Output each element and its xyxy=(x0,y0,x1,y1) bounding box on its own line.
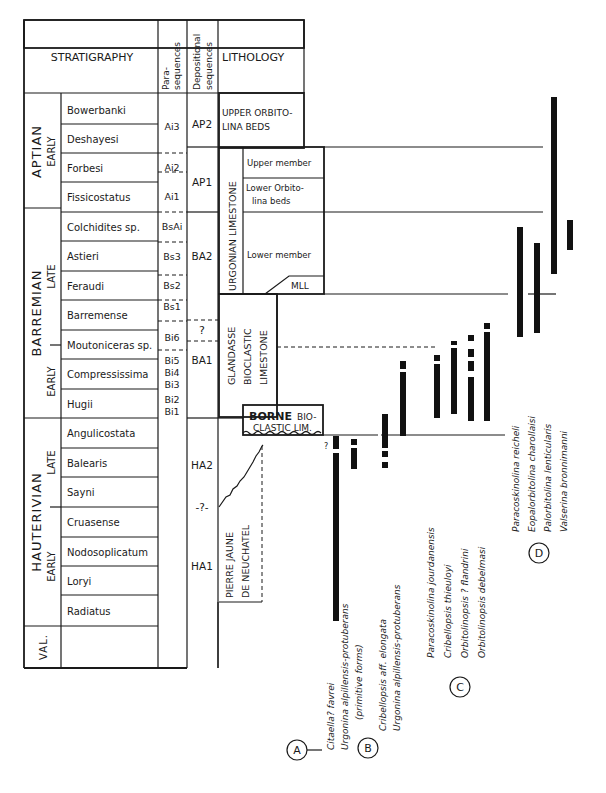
parasequence-label: Bi1 xyxy=(164,406,179,417)
zone-label: Fissicostatus xyxy=(67,192,130,203)
litho-mll: MLL xyxy=(291,281,309,291)
group-a-label: A xyxy=(293,744,301,757)
header-depositional-2: sequences xyxy=(204,42,214,90)
zone-label: Hugii xyxy=(67,399,93,410)
zone-label: Radiatus xyxy=(67,606,111,617)
range-bars: ? xyxy=(324,97,573,621)
parasequence-label: BsAi xyxy=(162,221,183,232)
parasequence-label: Ai1 xyxy=(164,191,179,202)
species-cribellopsis-elongata: Cribellopsis aff. elongata xyxy=(378,619,388,731)
group-d: D Paracoskinolina reicheli Eopalorbitoli… xyxy=(511,415,569,563)
group-b: B Cribellopsis aff. elongata Urgonina al… xyxy=(358,584,402,758)
group-c-label: C xyxy=(456,681,464,694)
parasequence-label: Bi5 xyxy=(164,355,179,366)
stage-label: APTIAN xyxy=(29,125,44,178)
depositional-sequence-label: BA2 xyxy=(191,250,212,262)
litho-glandasse-1: GLANDASSE xyxy=(226,327,237,385)
zone-label: Moutoniceras sp. xyxy=(67,340,152,351)
litho-pierre-jaune-1: PIERRE JAUNE xyxy=(224,532,235,598)
species-orbitolinopsis-flandrini: Orbitolinopsis ? flandrini xyxy=(460,548,470,658)
depositional-sequence-column: AP2AP1BA2?BA1HA2-?-HA1 xyxy=(187,118,218,572)
litho-borne-bold: BORNE xyxy=(249,410,292,423)
parasequence-label: Ai2 xyxy=(164,162,179,173)
litho-glandasse-2: BIOCLASTIC xyxy=(242,328,253,385)
substage-late-label: LATE xyxy=(46,264,57,288)
litho-borne-line2: CLASTIC LIM. xyxy=(253,423,312,433)
species-urgonina-primitive: Urgonina alpillensis-protuberans xyxy=(340,603,350,750)
depositional-sequence-label: BA1 xyxy=(191,354,212,366)
depositional-sequence-label: HA1 xyxy=(191,560,213,572)
stage-label: BARREMIAN xyxy=(29,270,44,357)
zone-label: Sayni xyxy=(67,487,95,498)
stage-label: HAUTERIVIAN xyxy=(29,472,44,572)
litho-lower-orbitolina-2: lina beds xyxy=(252,196,291,206)
zone-label: Colchidites sp. xyxy=(67,222,140,233)
stratigraphic-chart: STRATIGRAPHY Para- sequences Depositiona… xyxy=(0,0,606,793)
species-orbitolinopsis-debelmasi: Orbitolinopsis debelmasi xyxy=(477,546,487,658)
zone-label: Astieri xyxy=(67,251,99,262)
group-d-label: D xyxy=(535,547,543,560)
zone-column: BowerbankiDeshayesiForbesiFissicostatusC… xyxy=(61,105,158,669)
boundary-lines xyxy=(277,147,556,435)
parasequence-label: Bi2 xyxy=(164,394,179,405)
depositional-sequence-label: ? xyxy=(199,324,205,337)
parasequence-column: Ai3Ai2Ai1BsAiBs3Bs2Bs1Bi6Bi5Bi4Bi3Bi2Bi1 xyxy=(158,121,187,417)
zone-label: Barremense xyxy=(67,310,128,321)
species-paracoskinolina-reicheli: Paracoskinolina reicheli xyxy=(511,425,521,532)
zone-label: Compressissima xyxy=(67,369,149,380)
substage-label: EARLY xyxy=(46,135,57,166)
species-eopalorbitolina-charollaisi: Eopalorbitolina charollaisi xyxy=(527,415,537,532)
litho-glandasse-3: LIMESTONE xyxy=(258,330,269,385)
zone-label: Cruasense xyxy=(67,517,120,528)
parasequence-label: Bi4 xyxy=(164,367,179,378)
zone-label: Deshayesi xyxy=(67,134,119,145)
zone-label: Loryi xyxy=(67,576,91,587)
litho-pierre-jaune-2: DE NEUCHATEL xyxy=(240,524,251,598)
zone-label: Nodosoplicatum xyxy=(67,547,148,558)
header-parasequences-1: Para- xyxy=(161,67,171,90)
depositional-sequence-label: -?- xyxy=(195,501,208,513)
species-palorbitolina-lenticularis: Palorbitolina lenticularis xyxy=(543,423,553,532)
depositional-sequence-label: AP2 xyxy=(192,118,212,130)
species-valserina-bronnimanni: Valserina bronnimanni xyxy=(559,430,569,532)
substage-late-label: LATE xyxy=(46,450,57,474)
litho-upper-member: Upper member xyxy=(247,158,312,168)
parasequence-label: Bs3 xyxy=(163,251,181,262)
parasequence-label: Ai3 xyxy=(164,121,179,132)
group-b-label: B xyxy=(364,742,372,755)
lithology-column: UPPER ORBITO- LINA BEDS URGONIAN LIMESTO… xyxy=(218,93,378,668)
stage-label: VAL. xyxy=(38,634,49,660)
species-citaella-favrei: Citaella? favrei xyxy=(326,682,336,750)
header-lithology: LITHOLOGY xyxy=(222,51,284,64)
zone-label: Bowerbanki xyxy=(67,105,126,116)
species-cribellopsis-thieuloyi: Cribellopsis thieuloyi xyxy=(443,564,453,658)
group-a: A Citaella? favrei Urgonina alpillensis-… xyxy=(287,603,364,760)
litho-urgonian-limestone: URGONIAN LIMESTONE xyxy=(227,181,238,291)
parasequence-label: Bi3 xyxy=(164,379,179,390)
zone-label: Forbesi xyxy=(67,163,103,174)
zone-label: Feraudi xyxy=(67,281,104,292)
parasequence-label: Bs1 xyxy=(163,301,181,312)
depositional-sequence-label: HA2 xyxy=(191,459,213,471)
header-stratigraphy: STRATIGRAPHY xyxy=(51,51,134,64)
litho-borne-rest: BIO- xyxy=(297,412,316,422)
group-c: C Paracoskinolina jourdanensis Cribellop… xyxy=(426,527,487,697)
species-paracoskinolina-jourdanensis: Paracoskinolina jourdanensis xyxy=(426,527,436,658)
stage-column: APTIANEARLYBARREMIANLATEEARLYHAUTERIVIAN… xyxy=(24,125,61,668)
substage-early-label: EARLY xyxy=(46,365,57,396)
species-primitive-forms: (primitive forms) xyxy=(354,644,364,720)
species-urgonina-alpillensis: Urgonina alpillensis-protuberans xyxy=(392,584,402,731)
substage-early-label: EARLY xyxy=(46,550,57,581)
parasequence-label: Bi6 xyxy=(164,332,179,343)
depositional-sequence-label: AP1 xyxy=(192,176,212,188)
zone-label: Angulicostata xyxy=(67,428,135,439)
zone-label: Balearis xyxy=(67,458,107,469)
range-question-mark: ? xyxy=(324,442,328,451)
litho-lower-member: Lower member xyxy=(247,250,312,260)
header-parasequences-2: sequences xyxy=(172,42,182,90)
header-depositional-1: Depositional xyxy=(192,34,202,90)
litho-upper-orbitolina-1: UPPER ORBITO- xyxy=(222,108,293,118)
table-header: STRATIGRAPHY Para- sequences Depositiona… xyxy=(51,34,285,90)
litho-upper-orbitolina-2: LINA BEDS xyxy=(222,122,270,132)
parasequence-label: Bs2 xyxy=(163,280,181,291)
